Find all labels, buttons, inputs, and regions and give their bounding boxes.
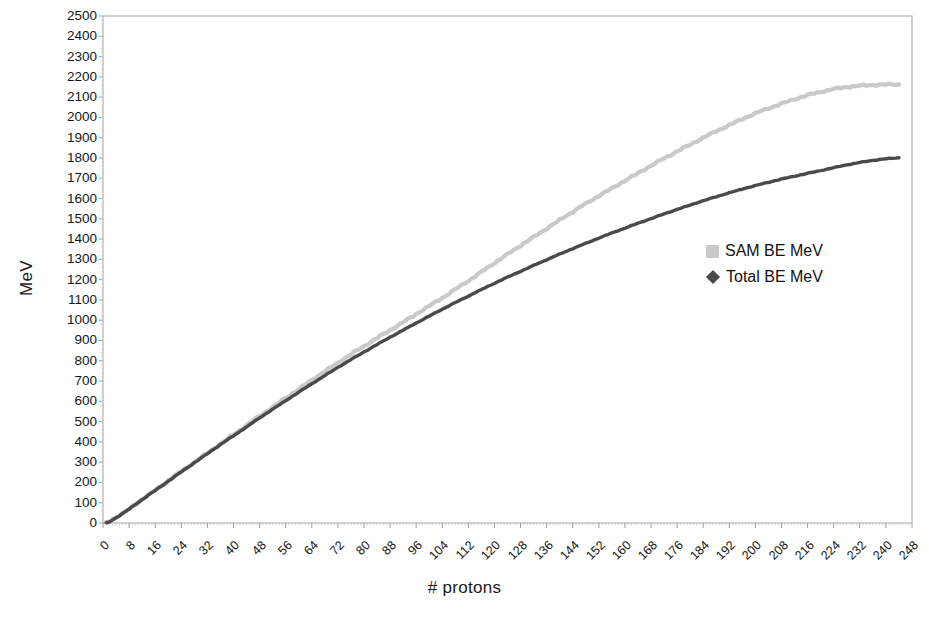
legend-diamond-marker-icon [706,270,720,284]
legend-square-marker-icon [706,245,719,258]
x-axis-title: # protons [0,578,929,598]
legend-label: Total BE MeV [726,268,823,286]
x-axis-tick-labels: 0816243240485664728088961041121201281361… [0,0,929,629]
chart-legend: SAM BE MeVTotal BE MeV [706,238,886,290]
legend-item: SAM BE MeV [706,238,886,264]
legend-label: SAM BE MeV [725,242,823,260]
chart-container: MeV 010020030040050060070080090010001100… [0,0,929,629]
legend-item: Total BE MeV [706,264,886,290]
